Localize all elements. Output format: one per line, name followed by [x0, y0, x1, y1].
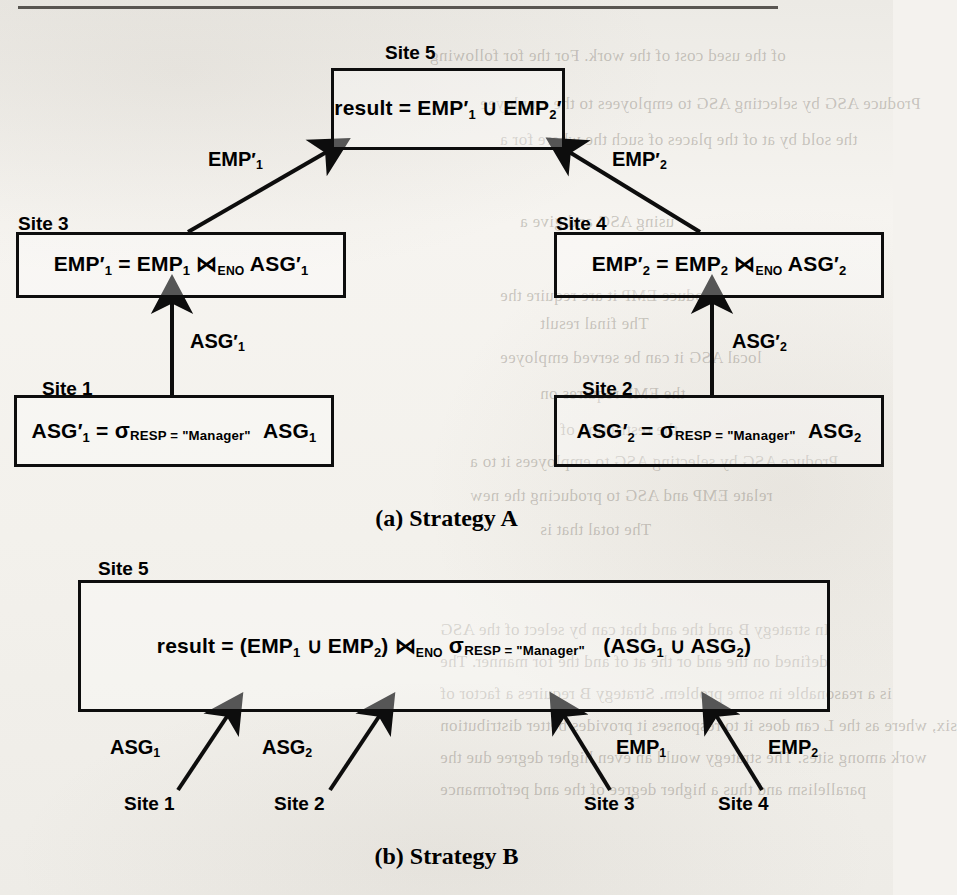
- token-equals: =: [221, 634, 233, 657]
- formula-site5-strategy-a: result = EMP′1 ∪ EMP2′: [334, 96, 561, 122]
- token-emp: EMP: [328, 634, 374, 657]
- token-emp: EMP: [592, 252, 638, 275]
- edge-label-text: ASG: [262, 736, 305, 758]
- selection-condition: RESP = "Manager": [464, 643, 585, 658]
- site-label-site5-a: Site 5: [385, 42, 436, 64]
- join-icon: ⋈: [395, 634, 416, 657]
- join-icon: ⋈: [196, 252, 217, 275]
- arrow-b-site1: [178, 712, 230, 790]
- edge-label-sub: 1: [659, 746, 666, 760]
- token-sub-1: 1: [301, 263, 308, 278]
- token-asg: ASG: [32, 419, 78, 442]
- edge-label-emp1: EMP1: [616, 736, 666, 760]
- site-label-site5-b: Site 5: [98, 558, 149, 580]
- join-attribute: ENO: [416, 645, 443, 659]
- token-prime: ′: [557, 97, 562, 119]
- token-sub-2: 2: [839, 263, 846, 278]
- token-equals: =: [399, 96, 411, 119]
- edge-label-sub: 2: [811, 746, 818, 760]
- site-label-b-site2: Site 2: [274, 793, 325, 815]
- edge-label-text: EMP: [768, 736, 811, 758]
- edge-label-sub: 2: [660, 158, 667, 172]
- token-sub-1: 1: [468, 107, 475, 122]
- edge-label-text: ASG: [190, 330, 233, 352]
- token-emp: EMP: [54, 252, 100, 275]
- node-site4: EMP′2 = EMP2 ⋈ENO ASG′2: [554, 232, 884, 298]
- token-sub-2: 2: [549, 107, 556, 122]
- edge-label-text: ASG: [732, 330, 775, 352]
- site-label-b-site4: Site 4: [718, 793, 769, 815]
- union-icon: ∪: [307, 634, 322, 657]
- join-attribute: ENO: [756, 264, 783, 278]
- formula-site2: ASG′2 = σRESP = "Manager" ASG2: [577, 418, 862, 445]
- token-emp: EMP: [137, 252, 183, 275]
- token-asg: ASG: [610, 634, 656, 657]
- token-sub-1: 1: [293, 644, 300, 659]
- token-result: result: [157, 634, 215, 657]
- caption-strategy-b: (b) Strategy B: [0, 843, 893, 870]
- token-sub-2: 2: [737, 644, 744, 659]
- edge-label-asg1: ASG1: [110, 736, 160, 760]
- node-site3: EMP′1 = EMP1 ⋈ENO ASG′1: [16, 232, 346, 298]
- join-attribute: ENO: [218, 264, 245, 278]
- token-sub-2: 2: [854, 429, 861, 444]
- token-sub-1: 1: [656, 644, 663, 659]
- edge-label-emp1-prime: EMP′1: [208, 148, 263, 172]
- union-icon: ∪: [482, 96, 497, 119]
- token-sub-2: 2: [721, 263, 728, 278]
- edge-label-sub: 1: [256, 158, 263, 172]
- join-icon: ⋈: [734, 252, 755, 275]
- token-asg: ASG: [808, 419, 854, 442]
- site-label-b-site3: Site 3: [584, 793, 635, 815]
- edge-label-asg2: ASG2: [262, 736, 312, 760]
- sigma-icon: σ: [115, 418, 130, 443]
- node-site5-strategy-b: result = (EMP1 ∪ EMP2) ⋈ENO σRESP = "Man…: [78, 580, 830, 712]
- formula-site3: EMP′1 = EMP1 ⋈ENO ASG′1: [54, 252, 309, 278]
- selection-condition: RESP = "Manager": [675, 428, 796, 443]
- sigma-icon: σ: [449, 633, 464, 658]
- selection-condition: RESP = "Manager": [130, 428, 251, 443]
- arrow-b-site4: [714, 712, 762, 790]
- node-site2: ASG′2 = σRESP = "Manager" ASG2: [554, 395, 884, 467]
- token-asg: ASG: [788, 252, 834, 275]
- edge-label-text: EMP: [612, 148, 655, 170]
- token-rparen: ): [381, 634, 388, 657]
- edge-label-asg2-prime: ASG′2: [732, 330, 787, 354]
- edge-label-sub: 1: [153, 746, 160, 760]
- node-site1: ASG′1 = σRESP = "Manager" ASG1: [14, 395, 334, 467]
- edge-label-emp2: EMP2: [768, 736, 818, 760]
- token-equals: =: [118, 252, 130, 275]
- token-emp: EMP: [503, 96, 549, 119]
- edge-label-text: EMP: [616, 736, 659, 758]
- token-result: result: [334, 96, 392, 119]
- site-label-b-site1: Site 1: [124, 793, 175, 815]
- token-rparen: ): [744, 634, 751, 657]
- arrow-b-site3: [562, 712, 610, 790]
- token-asg: ASG: [690, 634, 736, 657]
- token-emp: EMP: [247, 634, 293, 657]
- token-asg: ASG: [577, 419, 623, 442]
- token-equals: =: [641, 419, 653, 442]
- token-sub-2: 2: [643, 263, 650, 278]
- edge-label-sub: 1: [238, 340, 245, 354]
- token-emp: EMP: [417, 96, 463, 119]
- formula-site4: EMP′2 = EMP2 ⋈ENO ASG′2: [592, 252, 847, 278]
- token-emp: EMP: [675, 252, 721, 275]
- token-sub-2: 2: [628, 429, 635, 444]
- edge-label-sub: 2: [305, 746, 312, 760]
- edge-label-text: ASG: [110, 736, 153, 758]
- token-equals: =: [656, 252, 668, 275]
- formula-site5-strategy-b: result = (EMP1 ∪ EMP2) ⋈ENO σRESP = "Man…: [157, 633, 751, 660]
- sigma-icon: σ: [660, 418, 675, 443]
- token-asg: ASG: [250, 252, 296, 275]
- arrow-b-site2: [330, 712, 382, 790]
- token-sub-1: 1: [105, 263, 112, 278]
- token-sub-1: 1: [183, 263, 190, 278]
- formula-site1: ASG′1 = σRESP = "Manager" ASG1: [32, 418, 317, 445]
- token-sub-1: 1: [83, 429, 90, 444]
- edge-label-emp2-prime: EMP′2: [612, 148, 667, 172]
- edge-label-asg1-prime: ASG′1: [190, 330, 245, 354]
- node-site5-strategy-a: result = EMP′1 ∪ EMP2′: [331, 68, 565, 150]
- token-equals: =: [96, 419, 108, 442]
